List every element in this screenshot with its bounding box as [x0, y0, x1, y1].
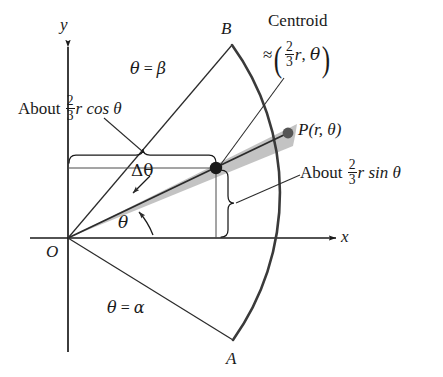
centroid-fraction: 23: [285, 40, 294, 69]
ray-beta-label: θ = β: [130, 61, 166, 77]
right-paren: ): [322, 45, 330, 75]
about-cos-callout: About 23r cos θ: [18, 94, 122, 123]
centroid-dot: [210, 162, 222, 174]
brace-sin-path: [221, 170, 234, 237]
point-A-label: A: [226, 350, 236, 367]
polar-centroid-figure: y x O B A P(r, θ) θ = β θ = α Δθ θ Centr…: [0, 0, 443, 377]
ray-theta-equals-alpha: [68, 238, 233, 340]
about-cos-word: About: [18, 99, 61, 118]
point-B-label: B: [221, 20, 231, 37]
sin-frac-numerator: 2: [348, 158, 357, 173]
theta-angle-label: θ: [118, 214, 128, 231]
delta-theta-text: Δθ: [131, 160, 154, 180]
theta-angle-text: θ: [118, 212, 128, 232]
radius-line-OP: [68, 133, 288, 238]
alpha-label-theta: θ: [107, 298, 117, 317]
axis-group: [30, 47, 336, 352]
outer-arc-group: [232, 45, 280, 340]
origin-label: O: [46, 243, 58, 260]
leader-sin: [236, 175, 300, 203]
about-sin-word: About: [300, 163, 343, 182]
alpha-label-value: α: [134, 298, 145, 317]
centroid-title-label: Centroid: [268, 12, 328, 29]
sin-expression: r sin θ: [358, 163, 401, 182]
beta-label-theta: θ: [130, 59, 140, 78]
approx-sign: ≈: [263, 45, 272, 64]
point-P-group: [283, 128, 294, 139]
point-P-text: P(r, θ): [298, 120, 341, 139]
left-paren: (: [274, 45, 282, 75]
beta-label-value: β: [157, 59, 166, 78]
cos-expression: r cos θ: [76, 99, 122, 118]
theta-arrow: [139, 212, 153, 235]
radius-to-P-group: [68, 133, 288, 238]
beta-label-eq: =: [144, 60, 153, 77]
cos-frac-numerator: 2: [66, 94, 75, 109]
alpha-label-eq: =: [121, 299, 130, 316]
cos-fraction: 23: [66, 94, 75, 123]
centroid-point-group: [210, 162, 222, 174]
centroid-expression: ≈(23r, θ): [263, 40, 332, 75]
sin-fraction: 23: [348, 158, 357, 187]
leader-cos: [104, 118, 142, 151]
x-axis-label: x: [341, 228, 349, 245]
outer-arc-BA: [232, 45, 280, 340]
sector-rays: [68, 45, 233, 340]
centroid-angle-var: θ: [310, 44, 320, 64]
vertical-brace-sin: [216, 170, 234, 238]
point-P-dot: [283, 128, 294, 139]
figure-vector-canvas: [0, 0, 443, 377]
point-P-label: P(r, θ): [298, 121, 341, 138]
delta-theta-label: Δθ: [131, 162, 154, 179]
centroid-frac-numerator: 2: [285, 40, 294, 55]
centroid-frac-denominator: 3: [285, 55, 294, 69]
cos-frac-denominator: 3: [66, 109, 75, 123]
sin-frac-denominator: 3: [348, 173, 357, 187]
ray-alpha-label: θ = α: [107, 300, 144, 316]
about-sin-callout: About 23r sin θ: [300, 158, 401, 187]
y-axis-label: y: [60, 16, 68, 33]
